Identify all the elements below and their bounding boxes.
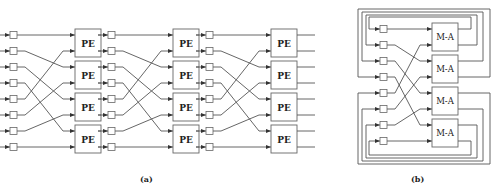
shuffle-wire — [115, 51, 173, 67]
arrowhead-icon — [70, 81, 75, 85]
latch-register — [380, 74, 387, 81]
latch-register — [206, 128, 213, 135]
arrowhead-icon — [103, 81, 108, 85]
shuffle-wire — [17, 115, 75, 131]
latch-register — [108, 80, 115, 87]
latch-register — [108, 144, 115, 151]
arrowhead-icon — [201, 129, 206, 133]
arrowhead-icon — [375, 123, 380, 127]
shuffle-wire — [115, 51, 173, 99]
arrowhead-icon — [168, 97, 173, 101]
arrowhead-icon — [168, 81, 173, 85]
arrowhead-icon — [70, 129, 75, 133]
ma-label: M-A — [436, 128, 455, 138]
arrowhead-icon — [168, 129, 173, 133]
arrowhead-icon — [427, 59, 432, 63]
panel-a-shuffle-exchange-network: PEPEPEPEPEPEPEPEPEPEPEPE — [0, 29, 315, 153]
latch-register — [108, 48, 115, 55]
arrowhead-icon — [266, 81, 271, 85]
feedback-loop-bottom — [358, 93, 490, 164]
pe-label: PE — [179, 39, 193, 49]
pe-label: PE — [81, 71, 95, 81]
arrowhead-icon — [375, 59, 380, 63]
arrowhead-icon — [201, 145, 206, 149]
arrowhead-icon — [168, 33, 173, 37]
latch-register — [108, 32, 115, 39]
arrowhead-icon — [103, 129, 108, 133]
pe-label: PE — [277, 71, 291, 81]
arrowhead-icon — [266, 145, 271, 149]
latch-register — [108, 64, 115, 71]
arrowhead-icon — [168, 145, 173, 149]
shuffle-wire — [115, 83, 173, 131]
arrowhead-icon — [5, 49, 10, 53]
latch-register — [206, 144, 213, 151]
arrowhead-icon — [375, 27, 380, 31]
pe-label: PE — [179, 103, 193, 113]
arrowhead-icon — [427, 27, 432, 31]
pe-label: PE — [277, 135, 291, 145]
latch-register — [380, 42, 387, 49]
arrowhead-icon — [375, 91, 380, 95]
shuffle-wire — [115, 115, 173, 131]
shuffle-wire — [213, 83, 271, 131]
arrowhead-icon — [427, 43, 432, 47]
arrowhead-icon — [201, 113, 206, 117]
arrowhead-icon — [103, 65, 108, 69]
arrowhead-icon — [70, 49, 75, 53]
arrowhead-icon — [266, 65, 271, 69]
shuffle-wire — [387, 45, 432, 61]
latch-register — [10, 128, 17, 135]
latch-register — [10, 80, 17, 87]
arrowhead-icon — [103, 97, 108, 101]
pe-label: PE — [81, 135, 95, 145]
latch-register — [10, 96, 17, 103]
latch-register — [10, 32, 17, 39]
caption-a: (a) — [140, 174, 153, 184]
arrowhead-icon — [70, 33, 75, 37]
latch-register — [108, 96, 115, 103]
arrowhead-icon — [375, 139, 380, 143]
arrowhead-icon — [266, 113, 271, 117]
arrowhead-icon — [5, 33, 10, 37]
arrowhead-icon — [427, 75, 432, 79]
ma-label: M-A — [436, 96, 455, 106]
shuffle-wire — [387, 109, 432, 125]
arrowhead-icon — [201, 97, 206, 101]
shuffle-wire — [213, 51, 271, 99]
latch-register — [206, 96, 213, 103]
shuffle-wire — [387, 45, 432, 93]
latch-register — [206, 32, 213, 39]
arrowhead-icon — [5, 129, 10, 133]
arrowhead-icon — [427, 91, 432, 95]
latch-register — [380, 106, 387, 113]
arrowhead-icon — [103, 113, 108, 117]
pe-label: PE — [277, 39, 291, 49]
arrowhead-icon — [427, 123, 432, 127]
arrowhead-icon — [266, 49, 271, 53]
arrowhead-icon — [201, 49, 206, 53]
arrowhead-icon — [201, 81, 206, 85]
arrowhead-icon — [5, 113, 10, 117]
latch-register — [380, 138, 387, 145]
latch-register — [206, 80, 213, 87]
latch-register — [380, 122, 387, 129]
pe-label: PE — [81, 39, 95, 49]
arrowhead-icon — [168, 65, 173, 69]
arrowhead-icon — [5, 65, 10, 69]
arrowhead-icon — [103, 49, 108, 53]
arrowhead-icon — [70, 113, 75, 117]
pe-label: PE — [81, 103, 95, 113]
arrowhead-icon — [427, 107, 432, 111]
latch-register — [108, 112, 115, 119]
ma-label: M-A — [436, 64, 455, 74]
panel-b-feedback-network: M-AM-AM-AM-A — [358, 9, 490, 164]
shuffle-wire — [17, 83, 75, 131]
latch-register — [206, 64, 213, 71]
latch-register — [380, 90, 387, 97]
arrowhead-icon — [266, 33, 271, 37]
arrowhead-icon — [70, 145, 75, 149]
arrowhead-icon — [201, 33, 206, 37]
arrowhead-icon — [168, 113, 173, 117]
feedback-loop-top — [358, 9, 490, 77]
